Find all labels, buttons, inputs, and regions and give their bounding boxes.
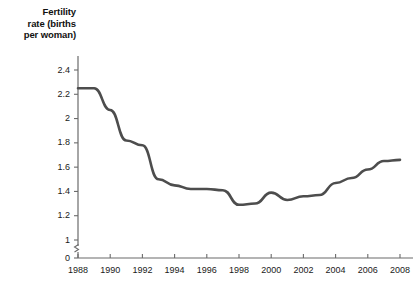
y-tick-label: 2 [32,114,70,123]
chart-axes [78,56,413,258]
chart-tick-marks [74,70,400,258]
y-tick-label: 0 [32,254,70,263]
y-tick-label: 1.2 [32,211,70,220]
y-tick-label: 2.2 [32,90,70,99]
y-tick-label: 1 [32,236,70,245]
y-tick-label: 2.4 [32,66,70,75]
y-tick-label: 1.4 [32,187,70,196]
x-tick-label: 2008 [380,266,419,275]
chart-figure: Fertility rate (births per woman) 2.42.2… [0,0,419,287]
y-tick-label: 1.8 [32,138,70,147]
y-tick-label: 1.6 [32,163,70,172]
chart-series-group [78,88,400,205]
